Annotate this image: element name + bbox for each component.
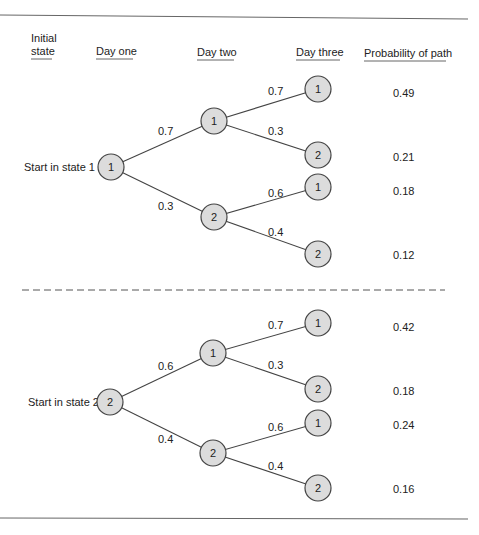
edge-prob: 0.3: [158, 200, 173, 212]
header-initial-line2: state: [31, 45, 55, 57]
path-probability: 0.12: [393, 249, 414, 261]
path-probability: 0.18: [393, 385, 414, 397]
edge-prob: 0.6: [268, 421, 283, 433]
bottom-rule: [0, 518, 468, 519]
edge-prob: 0.4: [268, 460, 283, 472]
node-label: 1: [315, 83, 321, 95]
node-label: 1: [315, 317, 321, 329]
edge-prob: 0.4: [158, 433, 173, 445]
path-probability: 0.16: [393, 483, 414, 495]
edge-prob: 0.7: [268, 319, 283, 331]
tree-start-state-2: Start in state 2 2 1 2 0.6 0.4 1 2 1 2 0…: [28, 310, 414, 501]
edge-prob: 0.7: [158, 125, 173, 137]
node-label: 1: [210, 347, 216, 359]
header-day-three: Day three: [296, 46, 344, 58]
node-label: 2: [315, 383, 321, 395]
path-probability: 0.21: [393, 151, 414, 163]
node-label: 2: [210, 447, 216, 459]
edge-prob: 0.3: [268, 359, 283, 371]
node-label: 1: [315, 417, 321, 429]
node-label: 2: [315, 248, 321, 260]
node-label: 2: [315, 482, 321, 494]
tree-start-state-1: Start in state 1 1 1 2 0.7 0.3 1 2 1 2 0…: [24, 76, 414, 267]
start-label: Start in state 1: [24, 161, 95, 173]
top-rule: [0, 15, 468, 19]
path-probability: 0.42: [393, 321, 414, 333]
path-probability: 0.18: [393, 185, 414, 197]
header-initial-line1: Initial: [31, 32, 57, 44]
node-label: 1: [211, 115, 217, 127]
node-label: 2: [211, 211, 217, 223]
start-label: Start in state 2: [28, 396, 99, 408]
edge-prob: 0.6: [158, 360, 173, 372]
node-label: 1: [315, 181, 321, 193]
edge-prob: 0.7: [268, 85, 283, 97]
probability-tree-diagram: Initial state Day one Day two Day three …: [0, 0, 479, 535]
edge-prob: 0.3: [268, 125, 283, 137]
node-label: 2: [107, 396, 113, 408]
path-probability: 0.24: [393, 419, 414, 431]
edge-prob: 0.4: [268, 226, 283, 238]
header-day-one: Day one: [96, 45, 137, 57]
header-day-two: Day two: [197, 46, 237, 58]
path-probability: 0.49: [393, 87, 414, 99]
node-label: 2: [315, 149, 321, 161]
edge-prob: 0.6: [268, 187, 283, 199]
header-probability: Probability of path: [364, 47, 452, 59]
node-label: 1: [108, 161, 114, 173]
